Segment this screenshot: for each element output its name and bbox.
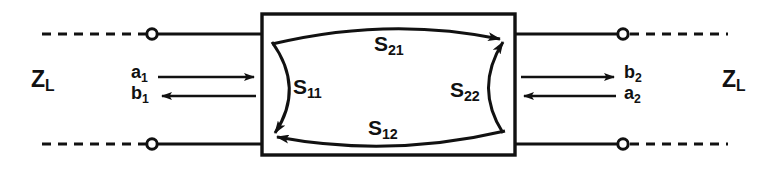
- s22-arrow: [489, 42, 504, 133]
- terminal-port2-top: [618, 29, 628, 39]
- port1-solid-leads: [158, 34, 263, 144]
- terminal-port1-top: [147, 29, 157, 39]
- s12-label: S12: [368, 117, 397, 138]
- s21-label: S21: [374, 33, 403, 54]
- s22-label: S22: [450, 79, 479, 100]
- load-impedance-label-left: ZL: [31, 68, 54, 91]
- port2-solid-leads: [514, 34, 617, 144]
- load-impedance-label-right: ZL: [722, 68, 745, 91]
- b1-label: b1: [131, 84, 149, 102]
- terminal-port2-bottom: [618, 139, 628, 149]
- b2-label: b2: [624, 63, 642, 81]
- s11-label: S11: [293, 76, 322, 97]
- a1-label: a1: [131, 63, 148, 81]
- s11-arrow: [272, 42, 289, 133]
- terminal-port1-bottom: [147, 139, 157, 149]
- a2-label: a2: [624, 84, 641, 102]
- diagram-vector-layer: [0, 0, 778, 173]
- port2-dashed-leads: [630, 34, 728, 144]
- diagram-canvas: ZL ZL S11 S21 S12 S22 a1 b1 b2 a2: [0, 0, 778, 173]
